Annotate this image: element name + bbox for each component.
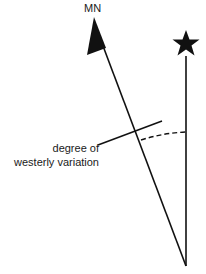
- variation-label-line2: westerly variation: [14, 155, 99, 169]
- true-north-star-icon: [173, 30, 200, 56]
- variation-angle-arc: [141, 132, 186, 140]
- magnetic-north-label: MN: [84, 2, 101, 14]
- variation-leader-line: [98, 121, 162, 145]
- magnetic-north-line: [103, 46, 186, 266]
- variation-label-line1: degree of: [14, 141, 99, 155]
- diagram-canvas: [0, 0, 206, 274]
- magnetic-north-arrowhead-icon: [87, 17, 106, 55]
- variation-label: degree of westerly variation: [14, 141, 99, 169]
